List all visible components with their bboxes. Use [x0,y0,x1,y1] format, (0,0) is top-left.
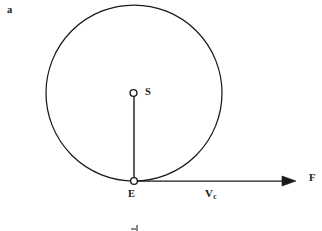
point-s-marker [130,90,137,97]
vector-label-vc: Vc [205,188,216,199]
vc-subscript: c [213,192,216,201]
diagram-svg [0,0,322,231]
vector-label-f: F [309,173,315,184]
force-vector-arrowhead [282,176,296,186]
point-label-e: E [128,189,135,200]
panel-label-a: a [7,5,12,16]
point-label-s: S [145,87,151,98]
point-e-marker [131,178,138,185]
vc-base: V [205,187,213,199]
cropped-glyph-stem [136,225,138,231]
figure-canvas: a S E F Vc [0,0,322,231]
cropped-bottom-glyph [131,225,141,231]
